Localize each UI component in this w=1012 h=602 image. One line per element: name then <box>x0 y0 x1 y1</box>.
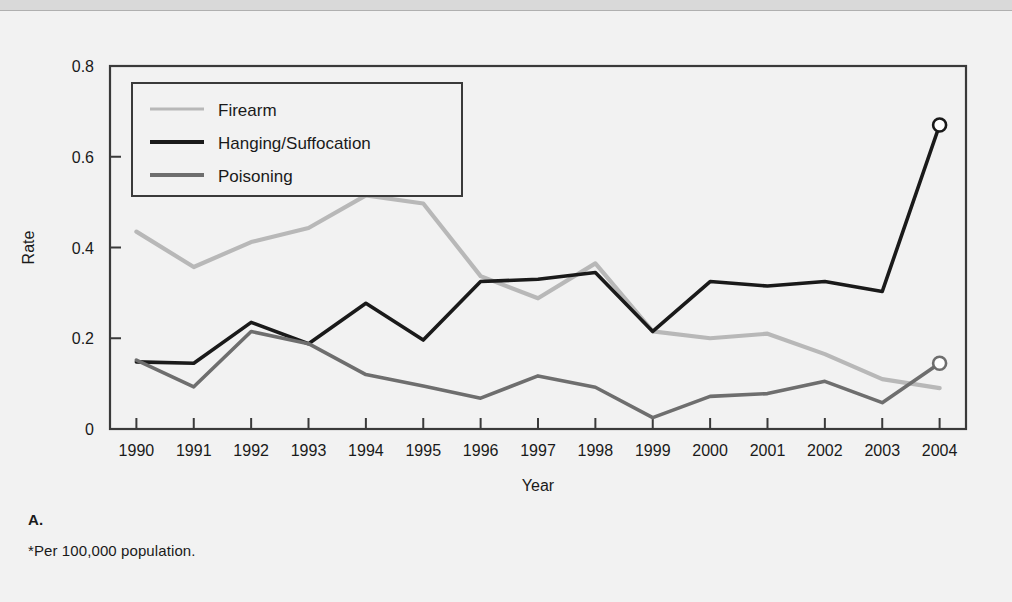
x-tick-label: 2003 <box>864 442 900 459</box>
x-tick-label: 1994 <box>348 442 384 459</box>
y-tick-label: 0.8 <box>72 58 94 75</box>
panel-label: A. <box>28 511 728 528</box>
legend-label: Firearm <box>218 101 277 120</box>
y-tick-label: 0 <box>85 421 94 438</box>
x-tick-label: 2000 <box>692 442 728 459</box>
x-tick-label: 1992 <box>233 442 269 459</box>
legend-label: Hanging/Suffocation <box>218 134 371 153</box>
figure-page: 00.20.40.60.8 19901991199219931994199519… <box>0 0 1012 602</box>
x-axis-ticks <box>136 418 939 429</box>
x-tick-label: 1991 <box>176 442 212 459</box>
y-axis-title: Rate <box>20 231 37 265</box>
x-tick-label: 1997 <box>520 442 556 459</box>
chart-figure: 00.20.40.60.8 19901991199219931994199519… <box>0 11 1012 602</box>
y-axis-tick-labels: 00.20.40.60.8 <box>72 58 94 438</box>
y-tick-label: 0.4 <box>72 240 94 257</box>
legend: FirearmHanging/SuffocationPoisoning <box>132 83 462 196</box>
x-tick-label: 2002 <box>807 442 843 459</box>
x-tick-label: 1995 <box>405 442 441 459</box>
x-axis-tick-labels: 1990199119921993199419951996199719981999… <box>119 442 958 459</box>
endpoint-marker-poisoning <box>933 357 946 370</box>
endpoint-markers-group <box>933 118 946 369</box>
x-tick-label: 2004 <box>922 442 958 459</box>
x-tick-label: 1998 <box>578 442 614 459</box>
x-tick-label: 1993 <box>291 442 327 459</box>
caption-block: A. *Per 100,000 population. <box>28 511 728 559</box>
y-tick-label: 0.6 <box>72 149 94 166</box>
x-axis-title: Year <box>522 477 555 494</box>
top-gray-band <box>0 0 1012 11</box>
x-tick-label: 1990 <box>119 442 155 459</box>
x-tick-label: 2001 <box>750 442 786 459</box>
series-line-firearm <box>136 195 939 388</box>
y-tick-label: 0.2 <box>72 330 94 347</box>
endpoint-marker-hanging-suffocation <box>933 118 946 131</box>
legend-label: Poisoning <box>218 167 293 186</box>
series-line-poisoning <box>136 331 939 417</box>
x-tick-label: 1999 <box>635 442 671 459</box>
x-tick-label: 1996 <box>463 442 499 459</box>
footnote-text: *Per 100,000 population. <box>28 542 728 559</box>
y-axis-ticks <box>110 157 121 339</box>
